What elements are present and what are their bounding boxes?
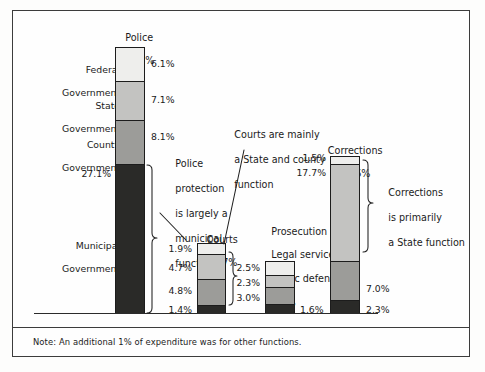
plot-area: Federal Government State Government Coun… [0, 0, 485, 372]
bar-title-prosecution-line1: Prosecution [271, 226, 327, 237]
bar-corrections-segment-federal [331, 157, 359, 165]
value-police-state: 7.1% [151, 94, 175, 106]
bar-corrections [330, 156, 360, 313]
callout-corrections-line1: Corrections [388, 187, 443, 198]
bar-prosecution-segment-county [266, 288, 294, 305]
value-courts-county: 4.8% [140, 285, 192, 297]
callout-courts-line3: function [234, 179, 273, 190]
value-police-municipal: 27.1% [55, 168, 111, 180]
level-label-municipal-line2: Government [62, 263, 120, 274]
value-prosecution-county: 3.0% [218, 292, 260, 304]
callout-corrections-line2: is primarily [388, 212, 442, 223]
level-label-municipal-line1: Municipal [76, 240, 120, 251]
bar-courts-segment-federal [198, 244, 225, 255]
bar-police-segment-state [116, 82, 144, 121]
callout-corrections-line3: a State function [388, 237, 465, 248]
bar-corrections-segment-county [331, 262, 359, 300]
callout-courts-line1: Courts are mainly [234, 129, 319, 140]
value-police-federal: 6.1% [151, 58, 175, 70]
bar-title-corrections-label: Corrections [328, 145, 383, 156]
callout-corrections: Corrections is primarily a State functio… [370, 175, 466, 262]
bar-police-segment-county [116, 121, 144, 166]
value-corrections-county: 7.0% [366, 283, 390, 295]
note-separator-rule [13, 327, 469, 328]
value-corrections-federal: 1.5% [288, 152, 326, 164]
bar-corrections-segment-municipal [331, 301, 359, 314]
bar-police-segment-federal [116, 48, 144, 82]
bar-prosecution [265, 261, 295, 313]
chart-baseline [34, 313, 378, 314]
figure-root: Federal Government State Government Coun… [0, 0, 485, 372]
bar-corrections-segment-state [331, 165, 359, 262]
callout-police-line1: Police [175, 158, 203, 169]
value-courts-state: 4.7% [140, 262, 192, 274]
value-courts-federal: 1.9% [140, 243, 192, 255]
value-prosecution-state: 2.3% [218, 277, 260, 289]
bar-prosecution-segment-state [266, 276, 294, 289]
value-corrections-state: 17.7% [288, 167, 326, 179]
chart-footnote: Note: An additional 1% of expenditure wa… [33, 337, 302, 347]
level-label-municipal: Municipal Government [30, 228, 120, 286]
value-police-county: 8.1% [151, 131, 175, 143]
value-prosecution-federal: 2.5% [218, 262, 260, 274]
bar-title-police-label: Police [125, 32, 153, 43]
callout-police-line3: is largely a [175, 208, 227, 219]
bar-prosecution-segment-federal [266, 262, 294, 276]
